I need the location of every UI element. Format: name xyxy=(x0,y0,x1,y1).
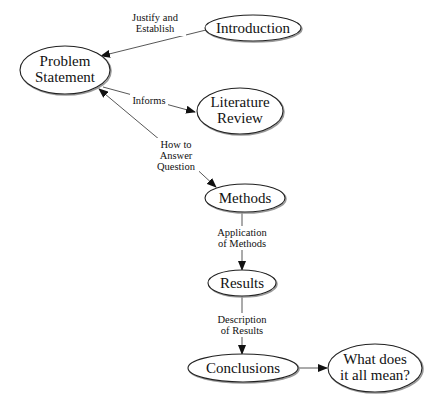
node-label: Conclusions xyxy=(206,360,280,376)
node-literature-review: Literature Review xyxy=(197,88,284,135)
edge-label-line: Informs xyxy=(132,95,165,106)
node-label: Introduction xyxy=(216,20,291,36)
node-introduction: Introduction xyxy=(205,15,302,42)
edge-label-line: Question xyxy=(157,161,196,172)
edge-label-line: Application xyxy=(217,227,267,238)
research-flow-diagram: Justify and Establish Informs How to Ans… xyxy=(0,0,440,408)
edge-label-line: Description xyxy=(218,314,268,325)
node-label: Problem xyxy=(40,53,91,69)
node-label: Review xyxy=(217,110,263,126)
edge-label-application-of-methods: Application of Methods xyxy=(214,226,270,250)
edge-label-justify-establish: Justify and Establish xyxy=(124,11,186,36)
node-conclusions: Conclusions xyxy=(188,354,299,383)
node-label: What does xyxy=(343,351,407,367)
node-label: Statement xyxy=(35,69,96,85)
node-label: it all mean? xyxy=(340,367,410,383)
edge-label-line: of Methods xyxy=(218,238,266,249)
node-label: Results xyxy=(220,275,264,291)
edge-label-how-to-answer: How to Answer Question xyxy=(153,138,199,174)
edge-label-description-of-results: Description of Results xyxy=(214,313,270,337)
node-label: Literature xyxy=(210,94,269,110)
node-methods: Methods xyxy=(205,184,286,213)
node-results: Results xyxy=(208,270,277,297)
edge-label-line: Establish xyxy=(136,23,175,34)
edge-label-line: of Results xyxy=(221,325,263,336)
node-problem-statement: Problem Statement xyxy=(20,46,111,95)
node-what-does-it-all-mean: What does it all mean? xyxy=(328,344,423,393)
edge-label-line: How to xyxy=(160,139,191,150)
edge-label-line: Justify and xyxy=(132,12,179,23)
node-label: Methods xyxy=(219,190,272,206)
edge-label-line: Answer xyxy=(160,150,193,161)
edge-label-informs: Informs xyxy=(130,94,168,106)
